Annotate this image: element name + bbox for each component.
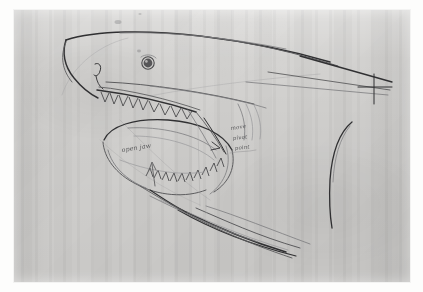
sketch-scene: open jaw move pivot point <box>0 0 423 292</box>
annotation-layer: open jaw move pivot point <box>0 0 423 292</box>
annotation-move: move <box>230 123 246 131</box>
annotation-point: point <box>234 143 250 152</box>
annotation-open-jaw: open jaw <box>121 141 152 154</box>
annotation-pivot: pivot <box>232 133 248 142</box>
